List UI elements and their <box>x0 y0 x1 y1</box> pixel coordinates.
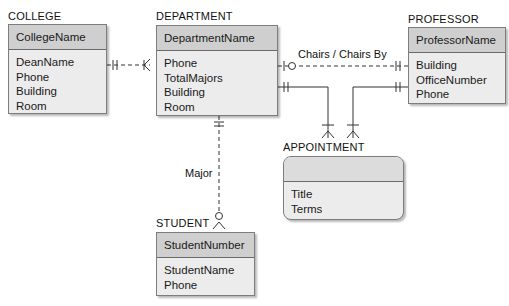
department-attr: Room <box>164 100 270 115</box>
professor-attr: Building <box>416 58 498 73</box>
major-relationship-label: Major <box>185 167 213 179</box>
department-attr: Phone <box>164 56 270 71</box>
appointment-attributes: Title Terms <box>284 182 403 216</box>
appointment-key <box>284 157 403 182</box>
professor-attr: Phone <box>416 87 498 102</box>
student-entity[interactable]: StudentNumber StudentName Phone <box>156 232 255 296</box>
appointment-attr: Terms <box>291 202 396 217</box>
college-title: COLLEGE <box>8 10 61 22</box>
professor-title: PROFESSOR <box>408 13 479 25</box>
professor-entity[interactable]: ProfessorName Building OfficeNumber Phon… <box>408 27 506 104</box>
department-attr: Building <box>164 85 270 100</box>
college-key: CollegeName <box>9 25 106 50</box>
appointment-title: APPOINTMENT <box>283 141 365 153</box>
student-title: STUDENT <box>156 217 209 229</box>
college-attr: DeanName <box>16 55 99 70</box>
department-key: DepartmentName <box>157 26 277 51</box>
college-attr: Phone <box>16 70 99 85</box>
chairs-relationship-label: Chairs / Chairs By <box>298 48 387 60</box>
student-attributes: StudentName Phone <box>157 258 254 292</box>
department-entity[interactable]: DepartmentName Phone TotalMajors Buildin… <box>156 25 278 116</box>
department-attr: TotalMajors <box>164 71 270 86</box>
college-entity[interactable]: CollegeName DeanName Phone Building Room <box>8 24 107 114</box>
student-key: StudentNumber <box>157 233 254 258</box>
college-attr: Building <box>16 84 99 99</box>
professor-attributes: Building OfficeNumber Phone <box>409 53 505 102</box>
college-attributes: DeanName Phone Building Room <box>9 50 106 113</box>
professor-attr: OfficeNumber <box>416 73 498 88</box>
appointment-entity[interactable]: Title Terms <box>283 156 404 220</box>
professor-key: ProfessorName <box>409 28 505 53</box>
college-attr: Room <box>16 99 99 114</box>
appointment-attr: Title <box>291 187 396 202</box>
department-attributes: Phone TotalMajors Building Room <box>157 51 277 114</box>
student-attr: StudentName <box>164 263 247 278</box>
student-attr: Phone <box>164 278 247 293</box>
department-title: DEPARTMENT <box>156 10 233 22</box>
